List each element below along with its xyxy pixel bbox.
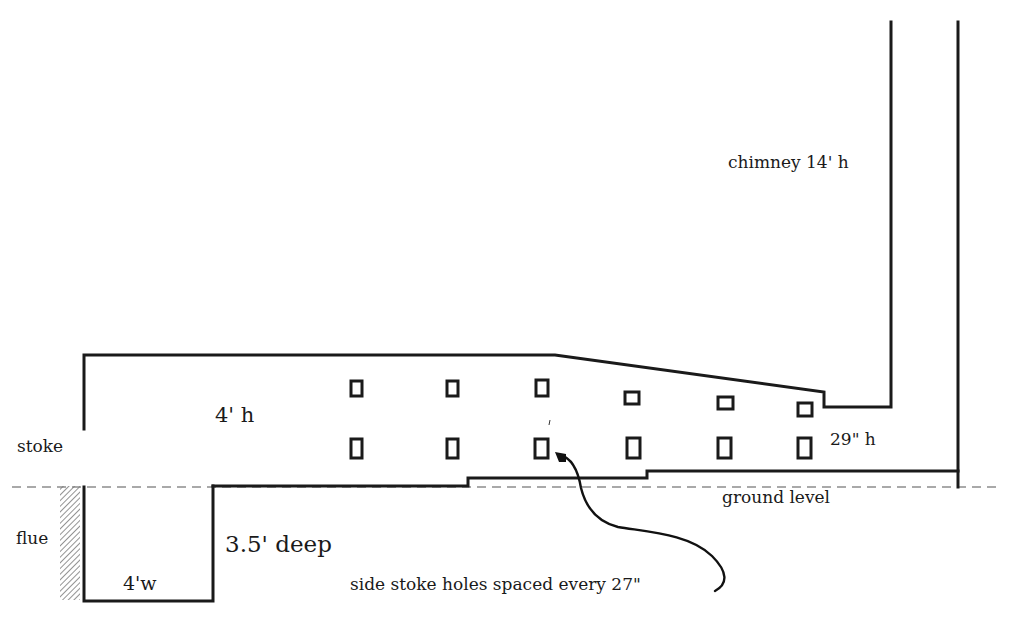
kiln-diagram: chimney 14' h 4' h stoke 29" h ground le… <box>0 0 1021 630</box>
stoke-hole <box>625 392 639 404</box>
stoke-hole <box>447 439 458 458</box>
flue-label: flue <box>16 528 48 548</box>
stray-mark <box>549 420 550 425</box>
kiln-roof-outline <box>84 22 891 429</box>
stoke-holes <box>351 380 812 458</box>
stoke-hole <box>351 381 362 396</box>
stoke-hole <box>718 397 733 409</box>
ground-level-label: ground level <box>722 487 830 507</box>
stoke-hole <box>718 438 731 458</box>
annotation-arrow <box>560 455 724 591</box>
stoke-hole <box>447 381 458 396</box>
stoke-hole <box>535 439 548 458</box>
pit-width-label: 4'w <box>123 572 157 594</box>
flue-hatch <box>60 486 80 600</box>
stoke-hole <box>798 438 811 458</box>
stoke-hole <box>351 439 362 458</box>
kiln-height-label: 4' h <box>215 403 254 427</box>
stoke-label: stoke <box>17 436 63 456</box>
annotation-label: side stoke holes spaced every 27" <box>350 574 641 594</box>
stoke-hole <box>627 438 640 458</box>
kiln-floor <box>213 471 958 486</box>
stoke-hole <box>798 403 812 416</box>
arrowhead-icon <box>555 452 566 462</box>
pit-depth-label: 3.5' deep <box>225 531 332 557</box>
stoke-hole <box>536 380 548 396</box>
exit-height-label: 29" h <box>830 429 876 449</box>
chimney-label: chimney 14' h <box>728 152 849 172</box>
